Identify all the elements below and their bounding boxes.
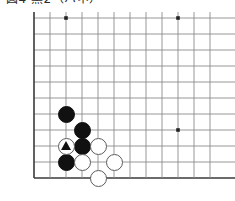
white-stone[interactable]	[106, 154, 123, 171]
white-stone[interactable]	[90, 170, 107, 187]
white-stone[interactable]	[90, 138, 107, 155]
black-stone[interactable]	[74, 138, 91, 155]
diagram-caption: 図4 黒2（ハネ）	[6, 0, 102, 6]
triangle-marker-icon	[61, 141, 71, 150]
go-board[interactable]	[0, 12, 235, 201]
black-stone[interactable]	[74, 122, 91, 139]
black-stone[interactable]	[58, 154, 75, 171]
black-stone[interactable]	[58, 106, 75, 123]
diagram-caption-bar: 図4 黒2（ハネ）	[0, 0, 235, 12]
white-stone[interactable]	[74, 154, 91, 171]
stone-layer	[0, 12, 235, 201]
